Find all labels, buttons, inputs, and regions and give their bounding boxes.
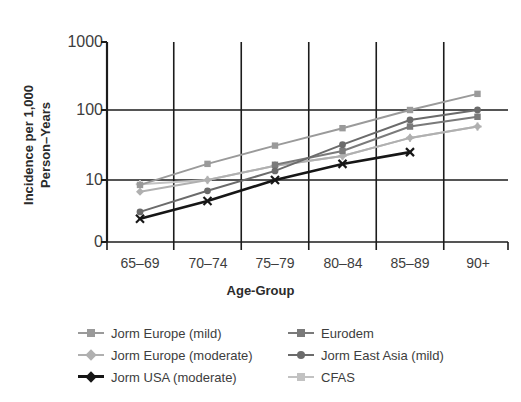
legend-label-jorm-east-asia-mild: Jorm East Asia (mild) (321, 348, 444, 363)
incidence-line-chart: Incidence per 1,000 Person–Years 1000 10… (0, 0, 521, 402)
x-marker-icon (136, 215, 144, 223)
plus-marker-icon (136, 180, 144, 188)
diamond-marker-icon (136, 188, 144, 196)
square-marker-icon (339, 125, 345, 131)
x-tick-label-80-84: 80–84 (311, 255, 375, 271)
plus-marker-icon (338, 152, 346, 160)
series-line (140, 94, 478, 185)
legend-swatch-jorm-europe-moderate (78, 348, 104, 362)
legend-item-jorm-europe-mild[interactable]: Jorm Europe (mild) (78, 322, 253, 344)
circle-marker-icon (407, 117, 414, 124)
series-jorm-east-asia-mild (137, 107, 481, 216)
y-axis-title-line1: Incidence per 1,000 (21, 85, 36, 205)
circle-marker-icon (339, 141, 346, 148)
legend-label-jorm-usa-moderate: Jorm USA (moderate) (111, 370, 237, 385)
square-marker-icon (272, 142, 278, 148)
square-marker-icon (407, 123, 413, 129)
series-line (140, 110, 478, 212)
circle-marker-icon (204, 187, 211, 194)
legend-column-left: Jorm Europe (mild) Jorm Europe (moderate… (78, 322, 253, 388)
x-marker-icon (339, 160, 347, 168)
series-line (140, 127, 478, 185)
series-jorm-europe-moderate (136, 123, 482, 196)
square-marker-icon (407, 107, 413, 113)
legend-label-eurodem: Eurodem (321, 326, 374, 341)
x-tick-label-75-79: 75–79 (243, 255, 307, 271)
circle-marker-icon (474, 107, 481, 114)
x-tick-label-85-89: 85–89 (378, 255, 442, 271)
y-tick-label-1000: 1000 (55, 33, 103, 51)
plus-marker-icon (473, 122, 481, 130)
square-marker-icon (474, 114, 480, 120)
legend-swatch-jorm-usa-moderate (78, 370, 104, 384)
square-marker-icon (272, 162, 278, 168)
x-marker-icon (406, 148, 414, 156)
square-marker-icon (474, 91, 480, 97)
legend-label-cfas: CFAS (321, 370, 355, 385)
series-cfas (136, 122, 482, 188)
legend-item-jorm-east-asia-mild[interactable]: Jorm East Asia (mild) (288, 344, 444, 366)
plus-marker-icon (203, 176, 211, 184)
x-tick-label-90plus: 90+ (446, 255, 510, 271)
y-tick-label-0: 0 (55, 233, 103, 251)
circle-marker-icon (137, 209, 144, 216)
square-marker-icon (204, 161, 210, 167)
series-jorm-usa-moderate (136, 148, 414, 223)
legend-item-cfas[interactable]: CFAS (288, 366, 444, 388)
diamond-marker-icon (406, 134, 414, 142)
legend-item-jorm-europe-moderate[interactable]: Jorm Europe (moderate) (78, 344, 253, 366)
plus-marker-icon (297, 373, 305, 381)
plus-marker-icon (406, 134, 414, 142)
x-marker-icon (204, 197, 212, 205)
legend-item-jorm-usa-moderate[interactable]: Jorm USA (moderate) (78, 366, 253, 388)
legend-swatch-jorm-east-asia-mild (288, 348, 314, 362)
y-axis-title: Incidence per 1,000 Person–Years (20, 45, 54, 245)
legend-label-jorm-europe-moderate: Jorm Europe (moderate) (111, 348, 253, 363)
x-tick-label-70-74: 70–74 (176, 255, 240, 271)
diamond-marker-icon (474, 123, 482, 131)
diamond-marker-icon (339, 152, 347, 160)
legend-item-eurodem[interactable]: Eurodem (288, 322, 444, 344)
legend-swatch-eurodem (288, 326, 314, 340)
legend-column-right: Eurodem Jorm East Asia (mild) CFAS (288, 322, 444, 388)
y-tick-label-100: 100 (55, 101, 103, 119)
x-axis-title: Age-Group (0, 283, 521, 298)
plus-marker-icon (271, 162, 279, 170)
series-line (140, 152, 410, 219)
square-marker-icon (339, 148, 345, 154)
series-line (275, 117, 478, 165)
series-jorm-europe-mild (137, 91, 481, 188)
chart-legend: Jorm Europe (mild) Jorm Europe (moderate… (78, 322, 508, 396)
diamond-marker-icon (204, 176, 212, 184)
legend-swatch-cfas (288, 370, 314, 384)
series-line (140, 127, 478, 192)
x-marker-icon (85, 371, 96, 382)
diamond-marker-icon (271, 162, 279, 170)
y-tick-label-10: 10 (55, 171, 103, 189)
y-axis-title-line2: Person–Years (38, 102, 53, 188)
legend-swatch-jorm-europe-mild (78, 326, 104, 340)
legend-label-jorm-europe-mild: Jorm Europe (mild) (111, 326, 222, 341)
x-tick-label-65-69: 65–69 (108, 255, 172, 271)
x-marker-icon (271, 176, 279, 184)
square-marker-icon (137, 182, 143, 188)
series-eurodem (272, 114, 481, 168)
circle-marker-icon (272, 167, 279, 174)
